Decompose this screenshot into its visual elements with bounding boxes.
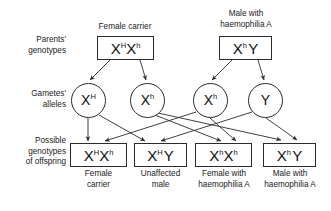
father-allele1-sup: h	[243, 41, 247, 50]
father-genotype: Xh Y	[233, 41, 258, 56]
father-allele1: X	[233, 40, 243, 57]
offspring-4-genotype: Xh Y	[277, 148, 302, 163]
row-label-offspring: Possible genotypes of offspring	[2, 136, 66, 168]
edge-father-to-gamete-3	[212, 60, 232, 80]
haemophilia-inheritance-diagram: Parents' genotypes Gametes' alleles Poss…	[0, 0, 331, 211]
gamete-circle-1: XH	[71, 83, 106, 118]
gamete-1-sup: H	[90, 92, 95, 101]
father-allele2: Y	[248, 40, 258, 57]
offspring-1-caption-line2: carrier	[68, 180, 129, 191]
gamete-2-genotype: Xh	[141, 93, 155, 108]
gamete-4-allele: Y	[261, 92, 270, 108]
mother-caption-line1: Female carrier	[78, 22, 172, 33]
offspring-3-allele1: X	[209, 147, 219, 164]
father-caption-line1: Male with	[198, 9, 294, 20]
row-label-offspring-line3: of offspring	[2, 157, 66, 168]
offspring-2-allele1-sup: H	[157, 148, 162, 157]
offspring-1-genotype: XHXh	[84, 148, 114, 163]
offspring-1-allele2: X	[99, 147, 109, 164]
edge-mother-to-gamete-1	[90, 60, 110, 80]
offspring-2-allele2: Y	[164, 147, 174, 164]
gamete-1-genotype: XH	[81, 93, 96, 108]
offspring-1-caption: Female carrier	[68, 169, 129, 190]
gamete-circle-2: Xh	[130, 83, 165, 118]
offspring-box-2: XH Y	[134, 143, 187, 167]
offspring-1-caption-line1: Female	[68, 169, 129, 180]
offspring-2-caption-line1: Unaffected	[128, 169, 193, 180]
offspring-1-allele1: X	[84, 147, 94, 164]
offspring-4-caption: Male with haemophilia A	[251, 169, 329, 190]
gamete-4-genotype: Y	[261, 93, 270, 108]
gamete-3-genotype: Xh	[204, 93, 218, 108]
parent-box-mother: XHXh	[97, 36, 154, 60]
gamete-3-allele: X	[204, 92, 213, 108]
offspring-2-caption: Unaffected male	[128, 169, 193, 190]
offspring-4-allele1: X	[277, 147, 287, 164]
mother-allele2-sup: h	[136, 41, 140, 50]
mother-genotype: XHXh	[111, 41, 141, 56]
offspring-3-allele2-sup: h	[234, 148, 238, 157]
offspring-box-3: XhXh	[195, 143, 252, 167]
offspring-3-allele2: X	[224, 147, 234, 164]
parent-box-father: Xh Y	[219, 36, 272, 60]
mother-caption: Female carrier	[78, 22, 172, 33]
father-caption-line2: haemophilia A	[198, 20, 294, 31]
offspring-1-allele2-sup: h	[109, 148, 113, 157]
edge-gamete1-to-offspring2	[99, 115, 145, 141]
mother-allele1: X	[111, 40, 121, 57]
offspring-2-caption-line2: male	[128, 180, 193, 191]
father-caption: Male with haemophilia A	[198, 9, 294, 30]
gamete-2-sup: h	[150, 92, 154, 101]
offspring-3-genotype: XhXh	[209, 148, 237, 163]
gamete-2-allele: X	[141, 92, 150, 108]
row-label-offspring-line2: genotypes	[2, 147, 66, 158]
offspring-4-caption-line1: Male with	[251, 169, 329, 180]
row-label-gametes-line2: alleles	[8, 100, 66, 111]
gamete-circle-4: Y	[248, 83, 283, 118]
offspring-4-caption-line2: haemophilia A	[251, 180, 329, 191]
edge-gamete2-to-offspring3	[155, 115, 221, 141]
row-label-parents: Parents' genotypes	[8, 35, 66, 56]
offspring-box-1: XHXh	[70, 143, 127, 167]
row-label-offspring-line1: Possible	[2, 136, 66, 147]
gamete-3-sup: h	[213, 92, 217, 101]
offspring-4-allele2: Y	[292, 147, 302, 164]
offspring-2-genotype: XH Y	[147, 148, 174, 163]
row-label-gametes-line1: Gametes'	[8, 89, 66, 100]
row-label-parents-line1: Parents'	[8, 35, 66, 46]
offspring-box-4: Xh Y	[263, 143, 316, 167]
edge-father-to-gamete-4	[258, 60, 264, 80]
offspring-2-allele1: X	[147, 147, 157, 164]
gamete-circle-3: Xh	[193, 83, 228, 118]
offspring-4-allele1-sup: h	[287, 148, 291, 157]
edge-mother-to-gamete-2	[140, 60, 146, 80]
mother-allele2: X	[126, 40, 136, 57]
row-label-parents-line2: genotypes	[8, 46, 66, 57]
row-label-gametes: Gametes' alleles	[8, 89, 66, 110]
edge-gamete4-to-offspring4	[266, 118, 297, 140]
edge-gamete3-to-offspring3	[210, 118, 236, 141]
